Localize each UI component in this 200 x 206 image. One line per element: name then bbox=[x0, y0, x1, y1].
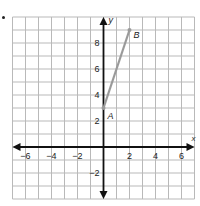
y-tick-label: 4 bbox=[94, 90, 99, 100]
x-tick-label: 2 bbox=[127, 151, 132, 161]
y-axis-label: y bbox=[108, 15, 114, 25]
y-tick-label: 2 bbox=[94, 116, 99, 126]
point-label-a: A bbox=[107, 111, 114, 121]
y-axis-down-arrow-icon bbox=[100, 191, 108, 199]
point-a bbox=[102, 106, 106, 110]
x-tick-label: 4 bbox=[153, 151, 158, 161]
x-tick-label: 6 bbox=[179, 151, 184, 161]
x-axis-right-arrow-icon bbox=[187, 143, 195, 151]
coordinate-plane: xy−6−4−2246−22468AB bbox=[0, 0, 200, 206]
y-tick-label: 8 bbox=[94, 38, 99, 48]
point-label-b: B bbox=[134, 30, 140, 40]
x-axis-left-arrow-icon bbox=[13, 143, 21, 151]
y-tick-label: 6 bbox=[94, 64, 99, 74]
y-axis-up-arrow-icon bbox=[100, 17, 108, 25]
y-tick-label: −2 bbox=[89, 168, 99, 178]
x-tick-label: −6 bbox=[20, 151, 30, 161]
x-tick-label: −2 bbox=[72, 151, 82, 161]
point-b bbox=[128, 28, 132, 32]
x-axis-label: x bbox=[191, 134, 197, 143]
x-tick-label: −4 bbox=[46, 151, 56, 161]
